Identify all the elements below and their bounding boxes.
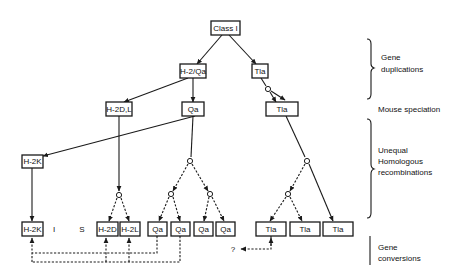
node-label: Tla	[265, 225, 277, 234]
stage-gene-duplications-line2: duplications	[381, 65, 423, 74]
bracket-gene-duplications	[367, 39, 374, 99]
node-label: H-2/Qa	[180, 67, 206, 76]
stage-gene-conversions-line2: conversions	[378, 254, 421, 263]
node-h2-qa: H-2/Qa	[180, 64, 206, 78]
recombination-circle-qa-right	[207, 191, 212, 196]
node-h2l-bottom: H-2L	[120, 222, 140, 236]
edge-qa-circle	[191, 116, 193, 157]
bracket-unequal-recombinations	[367, 119, 374, 218]
edge-tlasub-tla2	[290, 197, 302, 221]
node-label: Qa	[188, 105, 199, 114]
evolution-diagram: Class I H-2/Qa Tla H-2D,L Qa Tla H-2K H-…	[0, 0, 453, 279]
node-tla-bottom-2: Tla	[290, 222, 320, 236]
edge-qaleft-qa2	[173, 197, 180, 221]
node-qa-bottom-3: Qa	[194, 222, 213, 236]
node-label: Qa	[198, 225, 209, 234]
edge-qaright-qa3	[204, 197, 209, 221]
node-label: H-2K	[23, 225, 42, 234]
node-qa-bottom-4: Qa	[216, 222, 235, 236]
node-h2k-bottom: H-2K	[22, 222, 43, 236]
recombination-circle-tla-sub	[285, 191, 290, 196]
stage-gene-conversions-line1: Gene	[378, 243, 398, 252]
recombination-circle-h2	[116, 192, 121, 197]
edge-tlacircle-sub	[290, 164, 305, 191]
node-label: H-2L	[121, 225, 139, 234]
recombination-circle-tla	[304, 158, 309, 163]
node-h2-dl: H-2D,L	[106, 102, 132, 116]
stage-recombinations-line2: Homologous	[378, 157, 423, 166]
conversion-line-qa1	[32, 236, 157, 253]
edge-h2circle-h2l	[121, 198, 129, 221]
node-qa-bottom-1: Qa	[148, 222, 167, 236]
node-label: Tla	[276, 105, 288, 114]
edge-qaright-qa4	[212, 197, 224, 221]
node-label: Qa	[175, 225, 186, 234]
edge-qacircle-left	[173, 164, 188, 191]
edge-qacircle-right	[192, 164, 208, 191]
node-tla-bottom-3: Tla	[323, 222, 353, 236]
s-region-label: S	[79, 225, 84, 234]
edge-tlacircle-right	[271, 91, 285, 100]
node-qa-mid: Qa	[182, 102, 204, 116]
recombination-circle-qa-left	[168, 191, 173, 196]
stage-mouse-speciation: Mouse speciation	[378, 105, 440, 114]
edge-class1-tla	[229, 35, 256, 64]
node-label: H-2D	[98, 225, 117, 234]
node-label: Qa	[152, 225, 163, 234]
node-label: H-2D,L	[106, 105, 132, 114]
edge-qaleft-qa1	[159, 197, 169, 221]
edge-tla-circle	[261, 78, 266, 86]
node-label: Qa	[220, 225, 231, 234]
node-tla-mid: Tla	[266, 102, 298, 116]
edge-h2qa-h2dl	[124, 78, 188, 102]
i-region-label: I	[53, 225, 55, 234]
node-label: Tla	[299, 225, 311, 234]
node-label: Tla	[254, 67, 266, 76]
stage-gene-duplications-line1: Gene	[381, 53, 401, 62]
stage-recombinations-line1: Unequal	[378, 146, 408, 155]
node-label: Tla	[332, 225, 344, 234]
node-tla-bottom-1: Tla	[256, 222, 286, 236]
recombination-circle-qa	[187, 158, 192, 163]
recombination-circle-tla-top	[265, 86, 270, 91]
node-h2d-bottom: H-2D	[97, 222, 118, 236]
node-tla-top: Tla	[252, 64, 268, 78]
stage-recombinations-line3: recombinations	[378, 168, 432, 177]
edge-tlacircle-tla3	[309, 164, 333, 221]
node-qa-bottom-2: Qa	[171, 222, 190, 236]
edge-h2circle-h2d	[109, 198, 117, 221]
node-label: H-2K	[23, 157, 42, 166]
conversion-line-tla	[241, 236, 271, 249]
unknown-target-label: ?	[231, 245, 236, 254]
node-h2k-mid: H-2K	[22, 155, 43, 168]
node-class-i: Class I	[211, 21, 240, 35]
node-label: Class I	[213, 24, 237, 33]
edge-class1-h2qa	[197, 35, 222, 64]
edge-tlasub-tla1	[270, 197, 286, 221]
edge-tla-tlacircle	[286, 116, 305, 157]
